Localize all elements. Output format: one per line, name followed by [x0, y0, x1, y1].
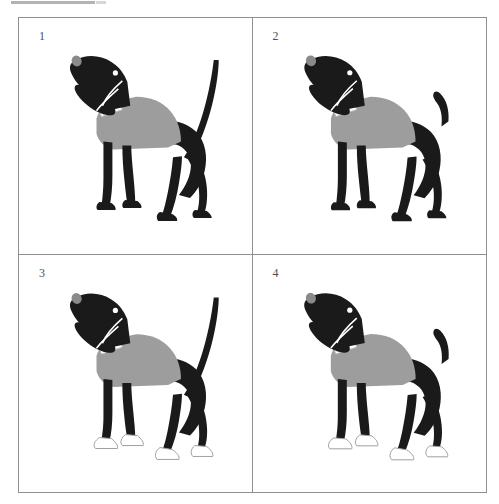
front-leg-far	[356, 383, 369, 439]
eye	[113, 70, 118, 75]
tail-short	[433, 329, 448, 364]
front-leg-far	[356, 145, 369, 204]
front-paw-far	[122, 200, 141, 208]
front-leg-far	[122, 145, 135, 204]
front-leg-near	[101, 141, 112, 207]
eye	[347, 70, 352, 75]
panel-1[interactable]: 1	[19, 18, 253, 255]
top-header-bar-tail	[96, 1, 106, 4]
dog-svg-1	[19, 18, 252, 254]
front-paw-far	[356, 200, 375, 208]
front-paw-far-white	[121, 435, 143, 446]
rear-leg-near	[162, 394, 182, 453]
rear-paw-far-white	[191, 446, 213, 457]
rear-leg-near	[396, 156, 416, 217]
dog-svg-3	[19, 255, 252, 492]
rear-leg-near	[162, 156, 182, 217]
front-leg-near	[335, 379, 346, 442]
dog-illustration-1	[19, 18, 252, 254]
eye	[113, 308, 118, 313]
front-paw-near	[330, 202, 349, 210]
panel-4[interactable]: 4	[253, 255, 487, 492]
eye	[347, 308, 352, 313]
rear-paw-near	[157, 212, 177, 221]
rear-paw-near	[391, 212, 411, 221]
dog-variations-grid: 1	[18, 17, 487, 493]
front-paw-far-white	[355, 435, 378, 446]
front-leg-near	[101, 379, 112, 442]
front-paw-near-white	[94, 438, 117, 449]
panel-3[interactable]: 3	[19, 255, 253, 492]
tail-short	[433, 91, 448, 126]
rear-paw-near-white	[155, 448, 179, 460]
rear-paw-near-white	[390, 448, 414, 460]
dog-illustration-2	[253, 18, 487, 254]
rear-paw-far-white	[425, 446, 447, 457]
panel-2[interactable]: 2	[253, 18, 487, 255]
dog-illustration-3	[19, 255, 252, 492]
top-header-bar	[11, 1, 95, 4]
dog-svg-2	[253, 18, 487, 254]
front-leg-near	[335, 141, 346, 207]
rear-paw-far	[427, 210, 446, 218]
front-paw-near-white	[328, 438, 352, 449]
rear-paw-far	[192, 210, 211, 218]
front-leg-far	[122, 383, 135, 439]
dog-svg-4	[253, 255, 487, 492]
front-paw-near	[96, 202, 115, 210]
rear-leg-near	[396, 394, 416, 453]
dog-illustration-4	[253, 255, 487, 492]
